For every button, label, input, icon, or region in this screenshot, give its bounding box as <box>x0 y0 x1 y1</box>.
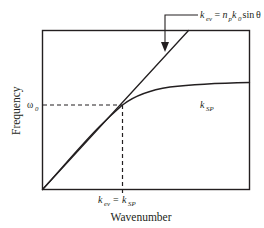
omega-symbol: ω <box>27 100 33 110</box>
y-axis-title: Frequency <box>10 86 23 135</box>
eq-k0-subscript: 0 <box>238 15 242 22</box>
k-sp-subscript: SP <box>206 105 214 112</box>
omega-subscript: 0 <box>35 105 39 112</box>
eq-k-subscript: ev <box>206 15 213 22</box>
k-sp-subscript-axis: SP <box>128 200 136 207</box>
k-sp-symbol-axis: k <box>122 194 127 205</box>
eq-k0-symbol: k <box>232 9 237 20</box>
k-ev-symbol: k <box>98 194 103 205</box>
eq-equals-sign: = <box>215 9 221 20</box>
figure-background <box>0 0 264 228</box>
eq-sin-text: sin <box>243 9 255 20</box>
x-axis-title: Wavenumber <box>110 211 171 223</box>
eq-n-symbol: n <box>223 9 228 20</box>
k-ev-subscript: ev <box>104 200 111 207</box>
eq-k-symbol: k <box>200 9 205 20</box>
k-sp-symbol: k <box>200 99 205 110</box>
eq-theta-symbol: θ <box>256 9 261 20</box>
surface-plasmon-dispersion-figure: Frequency Wavenumber ω 0 k ev = k SP k S… <box>0 0 264 228</box>
equals-sign-axis: = <box>113 194 119 205</box>
chart-canvas: Frequency Wavenumber ω 0 k ev = k SP k S… <box>0 0 264 228</box>
